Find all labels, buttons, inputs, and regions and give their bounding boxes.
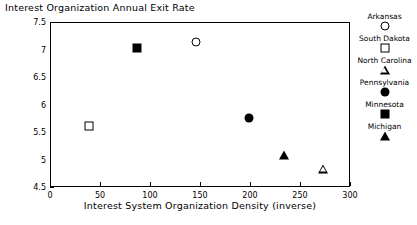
y-tick-label: 7.5	[33, 18, 46, 27]
legend-marker-wrap	[352, 87, 417, 98]
x-tick-mark	[250, 182, 251, 186]
chart-figure: Interest Organization Annual Exit Rate 4…	[0, 0, 417, 225]
legend-marker-triangle-filled-icon	[380, 132, 390, 141]
data-point-minnesota	[133, 43, 142, 52]
legend-marker-circle-filled-icon	[380, 88, 389, 97]
y-tick-label: 7	[41, 45, 46, 54]
legend-entry-south-dakota[interactable]: South Dakota	[352, 34, 417, 54]
plot-area	[50, 22, 350, 187]
y-tick-label: 6	[41, 100, 46, 109]
x-tick-label: 200	[242, 191, 257, 200]
legend-marker-circle-open-icon	[380, 22, 389, 31]
data-point-pennsylvania	[245, 114, 254, 123]
data-point-michigan	[279, 151, 289, 160]
legend-entry-north-carolina[interactable]: North Carolina	[352, 56, 417, 76]
legend-marker-wrap	[352, 131, 417, 142]
data-point-south-dakota	[85, 121, 94, 130]
legend-marker-wrap	[352, 21, 417, 32]
x-tick-mark	[350, 182, 351, 186]
legend-marker-wrap	[352, 65, 417, 76]
legend-label: Michigan	[352, 122, 417, 131]
legend-marker-wrap	[352, 43, 417, 54]
x-tick-mark	[100, 182, 101, 186]
legend-marker-square-open-icon	[380, 44, 389, 53]
x-tick-label: 100	[142, 191, 157, 200]
x-tick-label: 150	[192, 191, 207, 200]
y-tick-label: 6.5	[33, 73, 46, 82]
legend-entry-pennsylvania[interactable]: Pennsylvania	[352, 78, 417, 98]
legend-marker-square-filled-icon	[380, 110, 389, 119]
x-tick-mark	[150, 182, 151, 186]
x-tick-label: 50	[95, 191, 105, 200]
x-tick-mark	[300, 182, 301, 186]
legend-entry-arkansas[interactable]: Arkansas	[352, 12, 417, 32]
legend-marker-triangle-open-icon	[380, 66, 390, 75]
chart-legend: ArkansasSouth DakotaNorth CarolinaPennsy…	[352, 12, 417, 152]
data-point-north-carolina	[318, 164, 328, 173]
x-tick-label: 250	[292, 191, 307, 200]
legend-label: North Carolina	[352, 56, 417, 65]
y-axis-tick-labels: 4.555.566.577.5	[20, 22, 46, 187]
legend-entry-michigan[interactable]: Michigan	[352, 122, 417, 142]
y-tick-label: 5	[41, 155, 46, 164]
legend-label: Arkansas	[352, 12, 417, 21]
legend-label: South Dakota	[352, 34, 417, 43]
data-point-arkansas	[192, 38, 201, 47]
legend-entry-minnesota[interactable]: Minnesota	[352, 100, 417, 120]
legend-label: Minnesota	[352, 100, 417, 109]
x-tick-label: 300	[342, 191, 357, 200]
legend-marker-wrap	[352, 109, 417, 120]
y-tick-label: 5.5	[33, 128, 46, 137]
x-axis-label: Interest System Organization Density (in…	[50, 200, 350, 211]
y-tick-label: 4.5	[33, 183, 46, 192]
x-tick-mark	[50, 182, 51, 186]
x-tick-label: 0	[47, 191, 52, 200]
legend-label: Pennsylvania	[352, 78, 417, 87]
x-tick-mark	[200, 182, 201, 186]
chart-title: Interest Organization Annual Exit Rate	[5, 2, 195, 13]
